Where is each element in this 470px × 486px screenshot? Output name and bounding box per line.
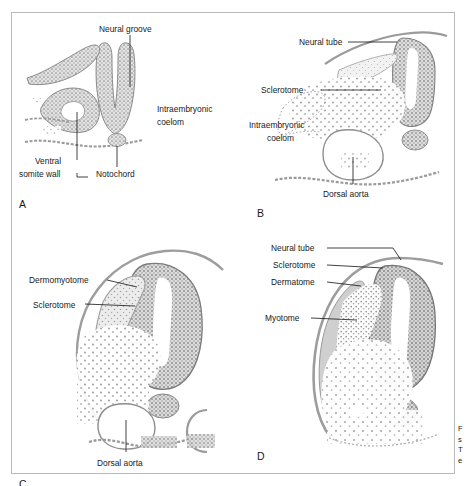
sclerotome-mesenchyme-lower: [327, 410, 425, 444]
label-intraembryonic-coelom-line1: Intraembryonic: [157, 104, 212, 114]
ventral-mesoderm-block: [141, 436, 177, 448]
label-ventral-somite-wall-line1: Ventral: [35, 156, 61, 166]
mesenchyme-cells-left: [33, 98, 43, 104]
label-neural-groove: Neural groove: [99, 24, 152, 34]
label-intraembryonic-coelom-line2: coelom: [157, 117, 184, 127]
label-dorsal-aorta: Dorsal aorta: [97, 458, 143, 468]
caption-line-1: F: [458, 424, 470, 435]
panel-c: Dermomyotome Sclerotome Dorsal aorta C: [11, 230, 235, 474]
label-sclerotome: Sclerotome: [273, 260, 316, 270]
caption-line-2: s: [458, 435, 470, 446]
panel-letter-a: A: [19, 198, 26, 210]
label-intraembryonic-coelom-line2: coelom: [267, 133, 294, 143]
panel-letter-c: C: [19, 478, 27, 486]
aortic-blood-cells: [341, 152, 369, 168]
ventral-vesicle: [350, 407, 364, 417]
panel-letter-b: B: [257, 207, 264, 219]
dorsal-ectoderm-fold: [27, 45, 100, 85]
label-sclerotome: Sclerotome: [261, 85, 304, 95]
label-notochord: Notochord: [96, 169, 135, 179]
label-neural-tube: Neural tube: [271, 243, 315, 253]
neural-groove-tissue: [96, 43, 135, 134]
caption-line-4: e: [458, 456, 470, 467]
leader-ventral-elbow: [77, 173, 88, 177]
notochord-tissue: [147, 394, 179, 418]
label-sclerotome: Sclerotome: [33, 300, 76, 310]
label-myotome: Myotome: [265, 313, 300, 323]
caption-line-3: T: [458, 445, 470, 456]
figure-caption-fragment: F s T e: [458, 424, 470, 466]
panel-d: Neural tube Sclerotome Dermatome Myotome…: [235, 230, 455, 474]
label-intraembryonic-coelom-line1: Intraembryonic: [249, 120, 304, 130]
notochord-tissue: [108, 134, 126, 147]
panel-a: Neural groove Intraembryonic coelom Vent…: [11, 12, 235, 230]
label-dorsal-aorta: Dorsal aorta: [323, 189, 369, 199]
label-neural-tube: Neural tube: [299, 37, 343, 47]
panel-b: Neural tube Sclerotome Intraembryonic co…: [235, 12, 455, 230]
notochord-tissue: [402, 130, 428, 150]
label-dermomyotome: Dermomyotome: [29, 275, 89, 285]
lateral-mesoderm-block: [187, 434, 215, 448]
panel-letter-d: D: [257, 450, 265, 462]
label-dermatome: Dermatome: [271, 277, 315, 287]
figure-plate: Neural groove Intraembryonic coelom Vent…: [0, 0, 470, 486]
somite-cavity: [61, 102, 85, 122]
leader-sclerotome: [327, 265, 383, 268]
mesenchyme-cells-ventral: [41, 126, 61, 134]
label-ventral-somite-wall-line2: somite wall: [19, 169, 61, 179]
